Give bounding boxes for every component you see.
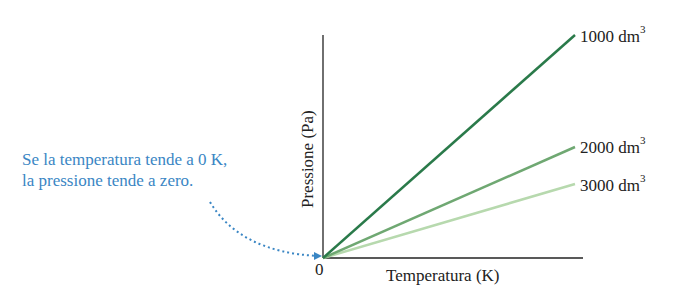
arrowhead-icon xyxy=(314,252,322,260)
y-axis-label: Pressione (Pa) xyxy=(298,110,318,208)
annotation-text: Se la temperatura tende a 0 K, la pressi… xyxy=(22,149,227,191)
series-line-3000 xyxy=(323,184,575,258)
series-label-3000: 3000 dm3 xyxy=(580,174,645,196)
series-line-1000 xyxy=(323,35,575,258)
x-axis-label: Temperatura (K) xyxy=(386,266,500,286)
chart-root: 1000 dm3 2000 dm3 3000 dm3 Se la tempera… xyxy=(0,0,684,300)
origin-tick-label: 0 xyxy=(315,260,324,280)
annotation-arrow xyxy=(210,202,318,256)
series-line-2000 xyxy=(323,147,575,258)
annotation-line-1: Se la temperatura tende a 0 K, xyxy=(22,149,227,170)
annotation-line-2: la pressione tende a zero. xyxy=(22,170,227,191)
series-label-2000: 2000 dm3 xyxy=(580,136,645,158)
series-label-1000: 1000 dm3 xyxy=(580,25,645,47)
